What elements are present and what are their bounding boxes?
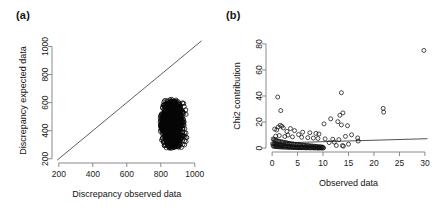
svg-text:1000: 1000 <box>185 169 204 179</box>
svg-text:15: 15 <box>344 158 354 168</box>
svg-text:30: 30 <box>420 158 430 168</box>
svg-text:25: 25 <box>395 158 405 168</box>
svg-text:40: 40 <box>254 91 264 101</box>
panel-b-label: (b) <box>226 9 241 21</box>
svg-text:400: 400 <box>86 169 100 179</box>
svg-text:800: 800 <box>40 67 50 81</box>
svg-text:200: 200 <box>40 151 50 165</box>
svg-text:0: 0 <box>254 145 264 150</box>
svg-text:5: 5 <box>295 158 300 168</box>
svg-text:1000: 1000 <box>40 37 50 56</box>
panel-a-label: (a) <box>16 9 30 21</box>
svg-text:400: 400 <box>40 123 50 137</box>
svg-text:Discrepancy expected data: Discrepancy expected data <box>18 46 28 155</box>
panel-b-plot: 020406080051015202530Observed dataChi2 c… <box>218 0 437 219</box>
svg-text:600: 600 <box>120 169 134 179</box>
svg-text:20: 20 <box>254 117 264 127</box>
svg-text:10: 10 <box>318 158 328 168</box>
svg-text:800: 800 <box>154 169 168 179</box>
panel-b: (b) 020406080051015202530Observed dataCh… <box>218 0 437 219</box>
panel-a: (a) 20040060080010002004006008001000Disc… <box>0 0 219 219</box>
svg-text:600: 600 <box>40 95 50 109</box>
svg-text:20: 20 <box>369 158 379 168</box>
svg-text:200: 200 <box>52 169 66 179</box>
panel-a-plot: 20040060080010002004006008001000Discrepa… <box>0 0 219 219</box>
svg-text:Discrepancy observed data: Discrepancy observed data <box>72 189 181 199</box>
figure-container: (a) 20040060080010002004006008001000Disc… <box>0 0 437 219</box>
svg-text:60: 60 <box>254 65 264 75</box>
svg-text:80: 80 <box>254 39 264 49</box>
svg-text:Observed data: Observed data <box>319 178 378 188</box>
svg-text:0: 0 <box>270 158 275 168</box>
svg-text:Chi2 contribution: Chi2 contribution <box>232 62 242 130</box>
